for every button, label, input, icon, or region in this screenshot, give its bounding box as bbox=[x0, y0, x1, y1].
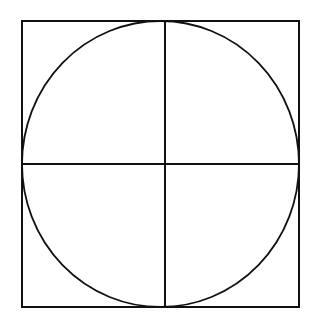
circle-in-square-diagram bbox=[0, 0, 319, 325]
